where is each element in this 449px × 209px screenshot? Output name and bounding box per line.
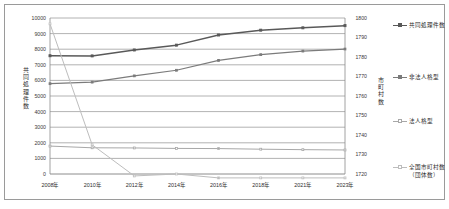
legend-label: 非法人格型: [409, 73, 449, 81]
right-axis-tick-label: 1730: [355, 151, 367, 157]
left-axis-tick-label: 9000: [34, 31, 46, 37]
series-marker: [260, 148, 262, 150]
series-marker: [302, 177, 304, 179]
series-marker: [302, 149, 304, 151]
right-axis-tick-label: 1800: [355, 15, 367, 21]
series-marker: [133, 147, 135, 149]
series-marker: [91, 147, 93, 149]
series-marker: [344, 149, 346, 151]
x-axis-tick-label: 2023年: [337, 181, 355, 189]
series-marker: [260, 29, 262, 31]
series-marker: [344, 177, 346, 179]
right-axis-tick-label: 1780: [355, 54, 367, 60]
legend-marker: [398, 23, 402, 27]
right-axis-tick-label: 1720: [355, 171, 367, 177]
series-marker: [302, 27, 304, 29]
left-axis-tick-label: 2000: [34, 140, 46, 146]
x-axis-tick-label: 2008年: [42, 181, 60, 189]
series-marker: [133, 75, 135, 77]
series-marker: [260, 177, 262, 179]
x-axis-tick-label: 2010年: [84, 181, 102, 189]
left-axis-tick-label: 3000: [34, 124, 46, 130]
legend-label: 共同処理件数: [409, 21, 449, 29]
left-axis-tick-label: 10000: [32, 15, 47, 21]
left-axis-tick-label: 1000: [34, 155, 46, 161]
right-axis-tick-label: 1770: [355, 73, 367, 79]
legend-marker: [398, 165, 402, 169]
left-axis-tick-label: 0: [43, 171, 46, 177]
series-line: [50, 49, 345, 84]
left-axis-tick-label: 6000: [34, 77, 46, 83]
series-marker: [49, 145, 51, 147]
left-axis-tick-label: 4000: [34, 109, 46, 115]
chart-frame: 共同処理件数 市町村数 0100020003000400050006000700…: [4, 4, 445, 200]
chart-legend: 共同処理件数非法人格型法人格型全国市町村数（団体数）: [393, 13, 449, 199]
left-axis-tick-label: 7000: [34, 62, 46, 68]
right-axis-tick-label: 1760: [355, 93, 367, 99]
right-axis-tick-label: 1740: [355, 132, 367, 138]
series-marker: [218, 59, 220, 61]
series-line: [50, 24, 345, 178]
series-marker: [49, 55, 51, 57]
series-marker: [175, 44, 177, 46]
x-axis-tick-label: 2016年: [210, 181, 228, 189]
series-marker: [218, 148, 220, 150]
series-marker: [218, 34, 220, 36]
series-marker: [175, 69, 177, 71]
series-marker: [91, 81, 93, 83]
x-axis-tick-label: 2021年: [294, 181, 312, 189]
x-axis-tick-label: 2012年: [126, 181, 144, 189]
x-axis-tick-label: 2018年: [252, 181, 270, 189]
series-marker: [175, 147, 177, 149]
legend-label: 全国市町村数（団体数）: [409, 163, 449, 180]
x-axis-tick-label: 2014年: [168, 181, 186, 189]
series-marker: [91, 144, 93, 146]
right-axis-tick-label: 1790: [355, 34, 367, 40]
series-marker: [49, 83, 51, 85]
series-marker: [91, 55, 93, 57]
right-axis-tick-label: 1750: [355, 112, 367, 118]
legend-marker: [398, 75, 402, 79]
series-marker: [218, 177, 220, 179]
series-marker: [175, 173, 177, 175]
series-marker: [344, 25, 346, 27]
legend-label: 法人格型: [409, 117, 449, 125]
legend-marker: [398, 119, 402, 123]
series-marker: [344, 48, 346, 50]
series-marker: [133, 175, 135, 177]
chart-plot-area: 0100020003000400050006000700080009000100…: [5, 5, 446, 201]
series-marker: [260, 54, 262, 56]
left-axis-tick-label: 5000: [34, 93, 46, 99]
series-marker: [302, 50, 304, 52]
left-axis-tick-label: 8000: [34, 46, 46, 52]
series-marker: [133, 49, 135, 51]
series-marker: [49, 23, 51, 25]
